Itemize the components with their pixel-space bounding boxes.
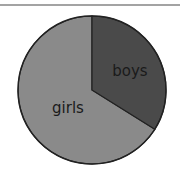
pie-chart: boys girls xyxy=(0,0,180,180)
slice-label-girls: girls xyxy=(52,99,84,117)
slice-label-boys: boys xyxy=(112,62,148,80)
